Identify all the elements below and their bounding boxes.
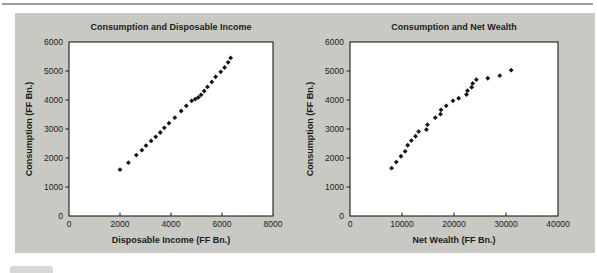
svg-text:2000: 2000 [44,153,63,163]
svg-text:4000: 4000 [325,95,344,105]
scatter-figure-panel: 0200040006000800001000200030004000500060… [15,13,595,253]
svg-text:40000: 40000 [546,219,570,229]
right-chart-title: Consumption and Net Wealth [391,22,516,32]
svg-text:6000: 6000 [325,37,344,47]
svg-text:0: 0 [58,211,63,221]
right-chart: 0100002000030000400000100020003000400050… [305,22,570,245]
svg-text:20000: 20000 [442,219,466,229]
partially-visible-next-element [10,266,53,273]
svg-text:1000: 1000 [325,182,344,192]
svg-text:0: 0 [339,211,344,221]
svg-text:4000: 4000 [162,219,181,229]
left-chart: 0200040006000800001000200030004000500060… [24,22,283,245]
svg-text:3000: 3000 [44,124,63,134]
svg-text:30000: 30000 [494,219,518,229]
left-chart-ylabel: Consumption (FF Bn.) [24,82,34,176]
right-chart-ylabel: Consumption (FF Bn.) [305,82,315,176]
left-chart-title: Consumption and Disposable Income [90,22,251,32]
svg-text:6000: 6000 [44,37,63,47]
svg-text:2000: 2000 [325,153,344,163]
svg-text:0: 0 [67,219,72,229]
svg-text:10000: 10000 [390,219,414,229]
svg-text:0: 0 [348,219,353,229]
svg-text:3000: 3000 [325,124,344,134]
svg-text:1000: 1000 [44,182,63,192]
svg-text:2000: 2000 [111,219,130,229]
svg-text:8000: 8000 [264,219,283,229]
svg-text:6000: 6000 [213,219,232,229]
right-chart-xlabel: Net Wealth (FF Bn.) [413,235,496,245]
top-rule-divider [2,3,593,5]
svg-text:5000: 5000 [325,66,344,76]
svg-text:5000: 5000 [44,66,63,76]
left-chart-xlabel: Disposable Income (FF Bn.) [112,235,231,245]
svg-text:4000: 4000 [44,95,63,105]
consumption-scatter-charts: 0200040006000800001000200030004000500060… [15,13,595,253]
figure-page: 0200040006000800001000200030004000500060… [0,0,597,273]
